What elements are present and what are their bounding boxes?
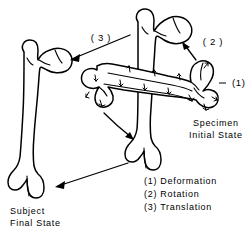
caption-specimen-line1: Specimen xyxy=(193,118,239,128)
caption-subject-line2: Final State xyxy=(10,218,61,228)
label-deformation: (1) xyxy=(232,77,246,88)
legend-item-rotation: (2) Rotation xyxy=(144,189,199,199)
bone-subject-final-state xyxy=(8,40,72,198)
arrow-specimen-to-rotated xyxy=(104,113,134,140)
arrow-lower-head xyxy=(55,181,65,189)
arrow-rotation xyxy=(182,42,196,60)
caption-specimen-line2: Initial State xyxy=(189,130,243,140)
deform-tick-11 xyxy=(86,92,89,98)
figure-canvas: ( 3 ) ( 2 ) (1) Specimen Initial State S… xyxy=(0,0,251,238)
arrow-curve-shaft xyxy=(104,113,131,137)
legend-item-deformation: (1) Deformation xyxy=(144,176,217,186)
arrow-lower-shaft xyxy=(58,163,128,186)
arrow-rotation-head xyxy=(182,42,190,50)
legend-item-translation: (3) Translation xyxy=(144,202,212,212)
femur-transformation-diagram: ( 3 ) ( 2 ) (1) Specimen Initial State S… xyxy=(0,0,251,238)
caption-subject-line1: Subject xyxy=(10,206,45,216)
label-translation: ( 3 ) xyxy=(91,32,111,43)
bone-subject-outline xyxy=(8,40,72,198)
label-rotation: ( 2 ) xyxy=(203,36,223,47)
arrow-translation-lower xyxy=(55,163,128,189)
